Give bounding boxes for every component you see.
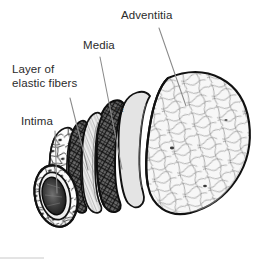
label-elastic-line-1: Layer of [12,63,54,75]
label-elastic-line-2: elastic fibers [12,77,77,89]
pe-annotation: Pe [115,106,124,113]
vessel-wall-figure: Pe Adventitia Media Layer ofelastic fibe… [0,0,273,271]
label-media: Media [83,39,115,53]
label-intima: Intima [21,115,53,129]
label-elastic-fibers: Layer ofelastic fibers [12,63,77,90]
adventitia-layer [146,72,249,214]
label-adventitia: Adventitia [121,9,173,23]
vessel-illustration: Pe [0,0,273,271]
